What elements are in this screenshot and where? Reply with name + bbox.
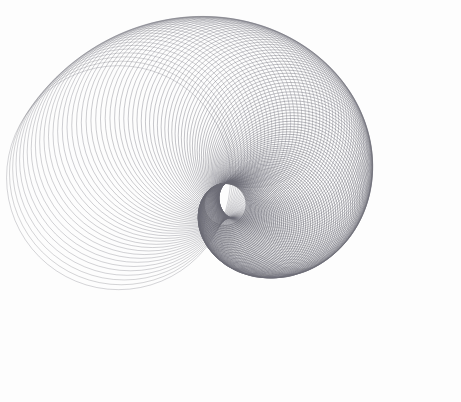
canvas-background [0, 0, 461, 402]
spiral-circle-figure [0, 0, 461, 402]
artboard: Spiral Circle Envelope [0, 0, 461, 402]
